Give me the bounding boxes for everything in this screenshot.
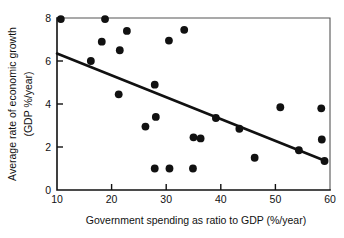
data-point [180,26,188,34]
data-point [123,27,131,35]
data-point [295,146,303,154]
data-point [321,157,329,165]
axis-lines [57,18,330,190]
x-tick-label: 40 [215,193,227,205]
y-tick-label: 0 [45,184,51,196]
data-point [151,165,159,173]
data-point [166,165,174,173]
x-tick-label: 10 [51,193,63,205]
y-axis-title-line1: Average rate of economic growth [6,27,18,181]
data-point [212,114,220,122]
x-tick-label: 20 [106,193,118,205]
x-tick-label: 30 [160,193,172,205]
y-axis-tick-labels: 02468 [45,12,51,196]
data-point [57,15,65,23]
data-points [57,15,329,172]
y-axis-ticks [57,61,63,147]
y-axis-title-line2: (GDP %/year) [22,71,34,136]
data-point [115,90,123,98]
scatter-plot: 102030405060 02468 Government spending a… [0,0,344,238]
data-point [190,133,198,141]
data-point [276,103,284,111]
data-point [142,123,150,131]
data-point [151,81,159,89]
data-point [116,46,124,54]
data-point [197,135,205,143]
x-axis-tick-labels: 102030405060 [51,193,336,205]
y-tick-label: 8 [45,12,51,24]
data-point [98,38,106,46]
x-tick-label: 50 [270,193,282,205]
x-axis-title: Government spending as ratio to GDP (%/y… [86,214,306,226]
data-point [251,154,259,162]
plot-frame [57,18,330,190]
y-tick-label: 2 [45,141,51,153]
y-tick-label: 6 [45,55,51,67]
data-point [165,37,173,45]
data-point [101,15,109,23]
data-point [317,104,325,112]
data-point [318,136,326,144]
data-point [189,165,197,173]
data-point [152,113,160,121]
x-axis-ticks [112,184,276,190]
y-tick-label: 4 [45,98,51,110]
chart-figure: 102030405060 02468 Government spending a… [0,0,344,238]
data-point [87,57,95,65]
x-tick-label: 60 [324,193,336,205]
trend-line [57,53,326,161]
data-point [235,125,243,133]
